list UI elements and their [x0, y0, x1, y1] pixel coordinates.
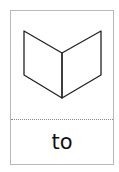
flash-card: to [10, 10, 114, 165]
open-book-icon [11, 11, 113, 119]
card-picture [11, 11, 113, 119]
card-word: to [11, 120, 113, 164]
